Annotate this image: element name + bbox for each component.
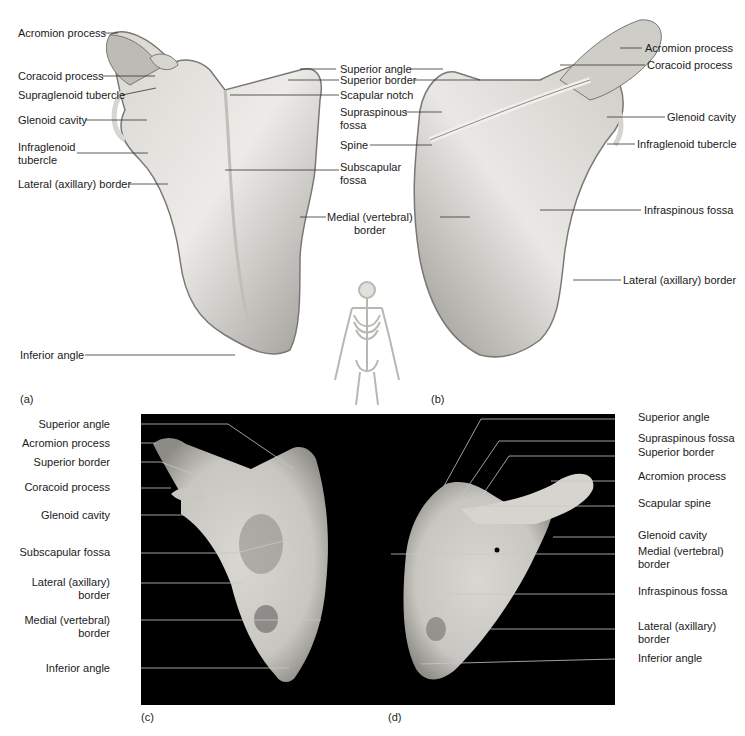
label-b-coracoid: Coracoid process [647,59,733,72]
label-c-medial: Medial (vertebral) border [24,614,110,640]
label-d-inferior: Inferior angle [638,652,702,665]
label-a-glenoid: Glenoid cavity [18,114,87,127]
label-d-spine: Scapular spine [638,497,711,510]
skeleton-figure-icon [335,282,399,405]
label-d-supraspinous: Supraspinous fossa [638,432,735,445]
label-d-acromion: Acromion process [638,470,726,483]
label-c-acromion: Acromion process [22,437,110,450]
label-d-glenoid: Glenoid cavity [638,529,707,542]
label-superior-border: Superior border [340,74,416,87]
label-c-lateral: Lateral (axillary) border [32,576,110,602]
scapula-photos [141,414,615,705]
label-b-glenoid: Glenoid cavity [667,111,736,124]
label-c-coracoid: Coracoid process [24,481,110,494]
label-c-superior-angle: Superior angle [38,418,110,431]
caption-c: (c) [141,711,154,723]
scapula-anterior-photo [153,438,328,682]
label-d-medial: Medial (vertebral) border [638,545,724,571]
label-spine: Spine [340,139,368,152]
photo-panel [141,414,615,705]
label-d-lateral: Lateral (axillary) border [638,620,716,646]
scapula-posterior-illustration [414,20,661,357]
label-subscapular-fossa: Subscapular fossa [340,161,401,187]
label-c-superior-border: Superior border [34,456,110,469]
label-c-inferior: Inferior angle [46,662,110,675]
caption-b: (b) [431,393,444,405]
label-b-infraspinous: Infraspinous fossa [644,204,733,217]
caption-a: (a) [20,393,33,405]
label-b-lateral: Lateral (axillary) border [623,274,736,287]
scapula-posterior-photo [403,474,593,680]
label-d-superior-border: Superior border [638,446,714,459]
label-a-coracoid: Coracoid process [18,70,104,83]
label-supraspinous-fossa: Supraspinous fossa [340,106,407,132]
label-a-acromion: Acromion process [18,27,106,40]
label-c-glenoid: Glenoid cavity [41,509,110,522]
label-a-supraglenoid: Supraglenoid tubercle [18,89,125,102]
label-a-lateral: Lateral (axillary) border [18,178,131,191]
label-a-inferior: Inferior angle [20,349,84,362]
label-b-infraglenoid: Infraglenoid tubercle [637,138,737,151]
label-d-infraspinous: Infraspinous fossa [638,585,727,598]
label-medial-border: Medial (vertebral) border [327,211,413,237]
label-b-acromion: Acromion process [645,42,733,55]
label-c-subscapular: Subscapular fossa [20,546,111,559]
caption-d: (d) [388,711,401,723]
label-d-superior-angle: Superior angle [638,411,710,424]
label-a-infraglenoid: Infraglenoid tubercle [18,141,76,167]
label-scapular-notch: Scapular notch [340,89,413,102]
